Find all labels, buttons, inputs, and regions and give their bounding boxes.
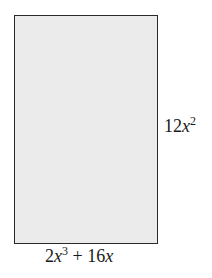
height-label: 12x2 [164, 116, 196, 137]
width-coefficient-2: 16 [87, 246, 105, 266]
rectangle [14, 15, 158, 244]
height-variable: x [182, 116, 190, 136]
width-coefficient-1: 2 [45, 246, 54, 266]
width-variable-1: x [54, 246, 62, 266]
width-operator: + [68, 246, 87, 266]
height-exponent: 2 [190, 114, 196, 128]
width-label: 2x3 + 16x [45, 246, 113, 267]
width-variable-2: x [105, 246, 113, 266]
width-exponent-1: 3 [62, 244, 68, 258]
height-coefficient: 12 [164, 116, 182, 136]
